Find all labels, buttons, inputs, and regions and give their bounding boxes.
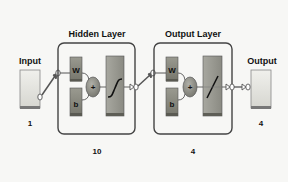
input-label: Input [19, 56, 41, 66]
wire [82, 94, 89, 100]
input-box [20, 70, 40, 108]
connector-output [222, 84, 250, 90]
connector-hidden-output [124, 70, 155, 90]
port-icon [230, 84, 234, 90]
weight-label: W [168, 66, 176, 75]
bias-label: b [74, 100, 79, 109]
output-activation-block [203, 56, 222, 116]
input-size: 1 [28, 119, 33, 128]
hidden-activation-block [106, 56, 124, 116]
hidden-layer-size: 10 [93, 147, 102, 156]
hidden-sum-node: + [86, 77, 100, 97]
wire [178, 94, 185, 100]
arrow-line [42, 76, 55, 95]
output-layer-size: 4 [191, 147, 196, 156]
output-node: Output 4 [247, 56, 277, 128]
output-size: 4 [259, 119, 264, 128]
arrow-line [138, 75, 150, 86]
connector-input-hidden [38, 70, 60, 100]
input-box-shadow [20, 106, 40, 109]
port-icon [246, 84, 250, 90]
hidden-layer-title: Hidden Layer [68, 29, 126, 39]
sum-icon: + [188, 83, 193, 92]
input-node: Input 1 [19, 56, 41, 128]
bias-label: b [170, 100, 175, 109]
wire [178, 73, 185, 80]
port-icon [134, 84, 138, 90]
output-box-shadow [251, 106, 271, 109]
output-box [251, 70, 271, 108]
output-label: Output [247, 56, 277, 66]
output-weight-block: W [166, 57, 178, 82]
port-icon [38, 94, 42, 100]
output-bias-block: b [166, 88, 178, 116]
hidden-layer: Hidden Layer W b + 10 [58, 29, 135, 156]
output-layer: Output Layer W b + 4 [154, 29, 232, 156]
hidden-bias-block: b [70, 88, 82, 116]
output-layer-title: Output Layer [165, 29, 222, 39]
hidden-weight-block: W [70, 57, 82, 82]
output-sum-node: + [183, 77, 197, 97]
wire [82, 73, 89, 80]
weight-label: W [72, 66, 80, 75]
sum-icon: + [91, 83, 96, 92]
neural-network-diagram: Input 1 Hidden Layer W b + [0, 0, 288, 182]
